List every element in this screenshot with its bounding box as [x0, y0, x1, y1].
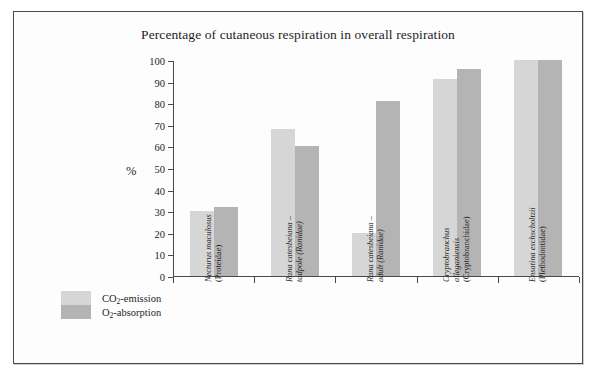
category-label-line: (Proteidae) — [214, 214, 224, 282]
y-tick-label: 90 — [155, 77, 166, 88]
legend-item-co2-emission: CO2-emission — [61, 291, 161, 305]
category-label-3: Rana catesbeiana –adult (Ranidae) — [366, 216, 386, 282]
category-label-line: Cryptobranchus — [442, 216, 452, 282]
category-label-line: Rana catesbeiana – — [285, 216, 295, 282]
y-tick-mark — [168, 61, 173, 62]
category-label-line: Rana catesbeiana – — [366, 216, 376, 282]
legend-swatch-o2-absorption — [61, 305, 91, 319]
y-tick-mark — [168, 147, 173, 148]
y-tick-mark — [168, 212, 173, 213]
y-tick-mark — [168, 104, 173, 105]
x-group-tick — [254, 277, 255, 283]
y-tick-mark — [168, 234, 173, 235]
category-label-line: (Cryptobranchidae) — [462, 216, 472, 282]
x-group-tick — [417, 277, 418, 283]
y-axis-line — [173, 61, 174, 277]
y-tick-label: 20 — [155, 228, 166, 239]
category-label-2: Rana catesbeiana –tadpole (Ranidae) — [285, 216, 305, 282]
y-tick-label: 40 — [155, 185, 166, 196]
y-tick-label: 100 — [149, 56, 165, 67]
x-group-tick — [173, 277, 174, 283]
legend-label-co2-emission: CO2-emission — [102, 293, 161, 304]
category-label-line: alleganiensis — [452, 216, 462, 282]
x-group-tick — [498, 277, 499, 283]
y-axis-title: % — [126, 164, 136, 179]
category-label-4: Cryptobranchusalleganiensis(Cryptobranch… — [442, 216, 472, 282]
chart-title: Percentage of cutaneous respiration in o… — [14, 27, 582, 43]
y-tick-mark — [168, 191, 173, 192]
y-tick-label: 60 — [155, 142, 166, 153]
category-label-1: Necturus maculosus(Proteidae) — [204, 214, 224, 282]
chart-legend: CO2-emission O2-absorption — [61, 291, 161, 319]
legend-label-o2-absorption: O2-absorption — [102, 307, 161, 318]
chart-frame: Percentage of cutaneous respiration in o… — [13, 11, 583, 364]
y-tick-label: 70 — [155, 120, 166, 131]
y-tick-mark — [168, 169, 173, 170]
legend-item-o2-absorption: O2-absorption — [61, 305, 161, 319]
y-tick-mark — [168, 83, 173, 84]
y-tick-label: 0 — [160, 272, 165, 283]
x-group-tick — [579, 277, 580, 283]
y-tick-label: 50 — [155, 164, 166, 175]
y-tick-label: 80 — [155, 99, 166, 110]
y-tick-label: 10 — [155, 250, 166, 261]
y-tick-label: 30 — [155, 207, 166, 218]
category-label-line: adult (Ranidae) — [376, 216, 386, 282]
figure-container: Percentage of cutaneous respiration in o… — [0, 0, 595, 376]
category-label-line: tadpole (Ranidae) — [295, 216, 305, 282]
category-label-line: Ensatina eschscholtzii — [528, 207, 538, 282]
category-label-5: Ensatina eschscholtzii(Plethodontidae) — [528, 207, 548, 282]
y-tick-mark — [168, 126, 173, 127]
category-label-line: (Plethodontidae) — [538, 207, 548, 282]
y-tick-mark — [168, 255, 173, 256]
x-group-tick — [335, 277, 336, 283]
legend-swatch-co2-emission — [61, 291, 91, 305]
category-label-line: Necturus maculosus — [204, 214, 214, 282]
